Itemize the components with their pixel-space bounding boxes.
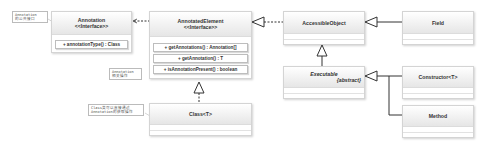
class-name: Field	[403, 20, 473, 26]
class-header: AnnotatedElement <<Interface>>	[150, 12, 251, 37]
note-annotation-operations: Annotation 相关操作	[109, 68, 142, 80]
stereotype: <<Interface>>	[52, 23, 131, 29]
class-accessible-object[interactable]: AccessibleObject	[283, 11, 365, 45]
class-header: AccessibleObject	[284, 12, 364, 34]
note-annotation-interface: Annotation 的公共接口	[12, 11, 48, 23]
class-header: Constructor<T>	[403, 67, 473, 88]
stereotype: <<Interface>>	[150, 24, 251, 30]
class-name: AccessibleObject	[284, 20, 364, 26]
class-constructor[interactable]: Constructor<T>	[402, 66, 474, 99]
class-class-t[interactable]: Class<T>	[149, 103, 252, 136]
class-name: Constructor<T>	[403, 74, 473, 80]
class-annotation[interactable]: Annotation <<Interface>> + annotationTyp…	[51, 11, 132, 53]
method-is-annotation-present: + isAnnotationPresent() : boolean	[153, 65, 248, 74]
class-method[interactable]: Method	[402, 105, 474, 138]
method-annotation-type: + annotationType() : Class	[55, 40, 128, 49]
class-header: Executable {abstract}	[284, 67, 364, 88]
class-name: Class<T>	[150, 111, 251, 117]
method-get-annotations: + getAnnotations() : Annotation[]	[153, 43, 248, 52]
class-name: Method	[403, 113, 473, 119]
note-class-annotation-access: Class类可以直接通过 Annotation的获取操作	[88, 104, 144, 116]
class-header: Field	[403, 12, 473, 34]
class-header: Annotation <<Interface>>	[52, 12, 131, 35]
method-get-annotation: + getAnnotation() : T	[153, 54, 248, 63]
class-executable[interactable]: Executable {abstract}	[283, 66, 365, 99]
abstract-modifier: {abstract}	[284, 77, 364, 83]
class-annotated-element[interactable]: AnnotatedElement <<Interface>> + getAnno…	[149, 11, 252, 79]
class-field[interactable]: Field	[402, 11, 474, 45]
class-header: Class<T>	[150, 104, 251, 125]
class-header: Method	[403, 106, 473, 127]
